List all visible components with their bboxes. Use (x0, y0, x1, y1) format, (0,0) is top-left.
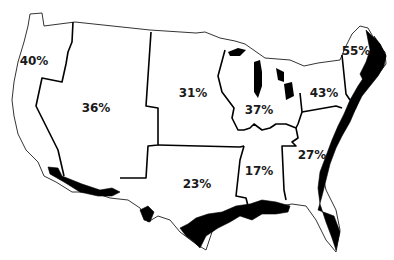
coast-texas (140, 200, 290, 248)
lake-michigan (254, 60, 262, 98)
region-label-east-south-central: 17% (245, 164, 274, 178)
region-border-mountain-wnc (120, 32, 158, 178)
region-border-matl-ne (342, 55, 350, 100)
region-label-mountain: 36% (82, 101, 111, 115)
coast-pacific-south (48, 167, 120, 196)
lake-huron (276, 68, 284, 82)
region-label-east-north-central: 37% (245, 103, 274, 117)
region-border-pacific-mountain (36, 22, 73, 176)
region-label-pacific: 40% (20, 54, 49, 68)
region-border-wnc-enc (218, 50, 244, 130)
region-border-esc-satl (282, 128, 298, 200)
region-label-new-england: 55% (342, 44, 371, 58)
region-label-west-north-central: 31% (179, 86, 208, 100)
lake-superior (228, 48, 246, 56)
region-border-wnc-wsc (158, 145, 244, 147)
region-border-matl-satl (302, 106, 342, 112)
region-border-enc-matl (296, 93, 302, 128)
region-border-enc-esc (244, 124, 296, 130)
lake-erie (284, 82, 294, 100)
region-label-middle-atlantic: 43% (310, 86, 339, 100)
us-regions-map (0, 0, 394, 260)
region-label-south-atlantic: 27% (298, 148, 327, 162)
region-label-west-south-central: 23% (183, 177, 212, 191)
